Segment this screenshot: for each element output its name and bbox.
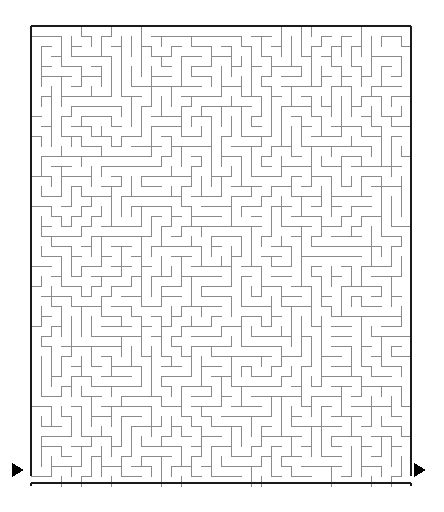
page-background (0, 0, 444, 512)
maze-canvas (0, 0, 444, 512)
maze-page (0, 0, 444, 512)
